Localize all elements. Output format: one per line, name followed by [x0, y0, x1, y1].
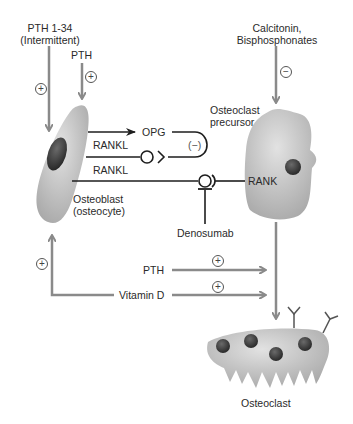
precursor-line1: Osteoclast: [210, 104, 260, 116]
pth-134-line1: PTH 1-34: [20, 22, 80, 34]
calcitonin-line2: Bisphosphonates: [232, 34, 322, 46]
rankl-ligand-1: [141, 151, 153, 163]
vitamin-d-sign: +: [212, 281, 224, 293]
opg-receptor: [158, 151, 164, 163]
calcitonin-label: Calcitonin, Bisphosphonates: [232, 22, 322, 46]
rankl-label-2: RANKL: [93, 164, 128, 176]
osteoblast-label: Osteoblast (osteocyte): [73, 193, 125, 217]
calcitonin-line1: Calcitonin,: [232, 22, 322, 34]
osteoblast-feedback-sign: +: [36, 258, 48, 270]
vitamin-d-osteoblast-arrow: [52, 236, 114, 295]
pth-top-sign: +: [85, 71, 97, 83]
pth-134-label: PTH 1-34 (Intermittent): [20, 22, 80, 46]
denosumab-label: Denosumab: [177, 227, 234, 239]
opg-feedback-label: (−): [188, 139, 201, 151]
vitamin-d-label: Vitamin D: [119, 289, 164, 301]
pth-lower-sign: +: [212, 255, 224, 267]
calcitonin-sign: −: [280, 66, 292, 78]
diagram-canvas: [0, 0, 353, 424]
osteoclast-precursor-label: Osteoclast precursor: [210, 104, 260, 128]
osteoblast-line1: Osteoblast: [73, 193, 125, 205]
osteoclast-cell: [207, 307, 338, 388]
rank-receptor: [212, 175, 215, 187]
precursor-nucleus: [285, 159, 301, 175]
rank-label: RANK: [248, 175, 277, 187]
rankl-ligand-2: [199, 175, 211, 187]
pth-top-label: PTH: [71, 49, 92, 61]
opg-label: OPG: [142, 126, 165, 138]
pth-134-sign: +: [35, 83, 47, 95]
pth-lower-label: PTH: [143, 264, 164, 276]
osteoclast-label: Osteoclast: [241, 397, 291, 409]
osteoblast-line2: (osteocyte): [73, 205, 125, 217]
rankl-label-1: RANKL: [93, 139, 128, 151]
pth-134-line2: (Intermittent): [20, 34, 80, 46]
precursor-line2: precursor: [210, 116, 260, 128]
